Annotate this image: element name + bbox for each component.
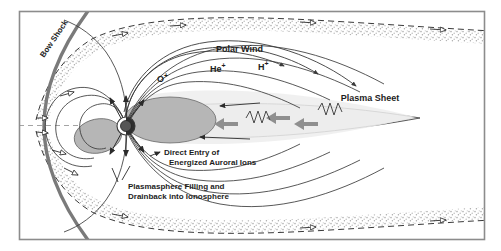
label-polar-wind: Polar Wind <box>216 44 263 54</box>
label-direct-entry-line1: Direct Entry of <box>164 148 219 157</box>
helium-superscript: + <box>222 62 226 69</box>
hydrogen-superscript: + <box>265 60 269 67</box>
label-plasmasphere-line1: Plasmasphere Filling and <box>128 182 225 191</box>
earth-outline <box>121 121 132 132</box>
label-direct-entry-line2: Energized Auroral Ions <box>169 158 257 167</box>
label-plasma-sheet: Plasma Sheet <box>341 93 400 103</box>
magnetosphere-diagram: Bow Shock Polar Wind O+ He+ H+ Plasma Sh… <box>0 0 501 251</box>
oxygen-superscript: + <box>164 72 168 79</box>
oxygen-symbol: O <box>157 74 164 84</box>
label-plasmasphere-line2: Drainback into Ionosphere <box>128 192 229 201</box>
helium-symbol: He <box>210 64 222 74</box>
figure-canvas: Bow Shock Polar Wind O+ He+ H+ Plasma Sh… <box>0 0 501 251</box>
